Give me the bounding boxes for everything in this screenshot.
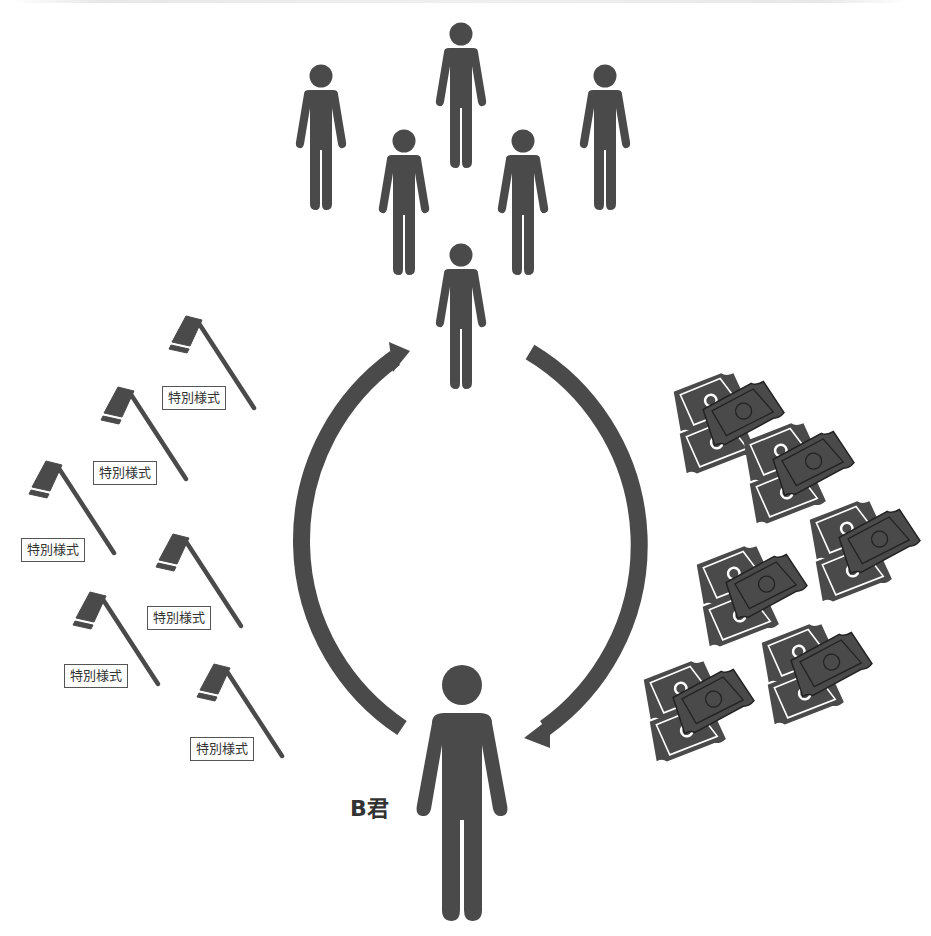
left-cycle-arrow: [301, 342, 410, 728]
person-icon: [417, 665, 508, 921]
person-icon: [379, 130, 429, 276]
cycle-diagram: 特別様式 特別様式 特別様式 特別様式 特別様式 特別様式 B君: [0, 0, 931, 936]
person-icon: [296, 65, 346, 211]
hoe-group: [29, 316, 282, 756]
person-icon: [580, 65, 630, 211]
banknote-stack-icon: [808, 497, 924, 603]
main-person-label: B君: [350, 790, 389, 822]
right-cycle-arrow: [524, 352, 639, 748]
hoe-label: 特別様式: [93, 461, 157, 485]
hoe-label: 特別様式: [21, 538, 85, 562]
hoe-label: 特別様式: [64, 664, 128, 688]
main-person-b: [417, 665, 508, 921]
hoe-label: 特別様式: [190, 737, 254, 761]
hoe-label: 特別様式: [147, 606, 211, 630]
hoe-label: 特別様式: [162, 386, 226, 410]
arrow-head-icon: [524, 718, 550, 748]
person-icon: [436, 23, 486, 169]
person-icon: [498, 130, 548, 276]
person-icon: [436, 244, 486, 390]
money-group: [642, 369, 924, 763]
banknote-stack-icon: [642, 657, 758, 763]
people-group: [296, 23, 630, 390]
banknote-stack-icon: [760, 620, 876, 726]
